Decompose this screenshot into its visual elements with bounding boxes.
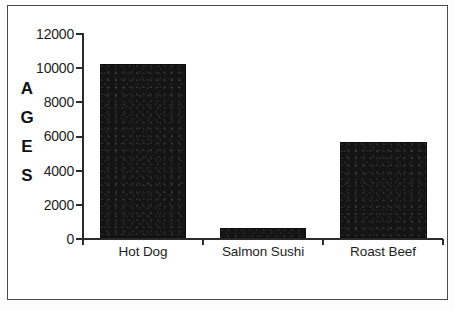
y-tick-label-12000: 12000 [28,26,74,42]
y-tick-label-4000: 4000 [28,163,74,179]
x-category-label-roast-beef: Roast Beef [323,244,443,259]
y-tick-2000 [76,204,83,206]
bar-hot-dog[interactable] [100,64,186,238]
y-tick-8000 [76,101,83,103]
y-tick-label-10000: 10000 [28,60,74,76]
bar-chart: A G E S 12000 10000 8000 6000 4000 2000 … [0,0,455,311]
bar-salmon-sushi[interactable] [220,228,306,238]
bar-roast-beef[interactable] [340,142,427,238]
y-axis-tick-labels: 12000 10000 8000 6000 4000 2000 0 [26,0,74,311]
x-axis-line [82,238,443,240]
y-tick-label-8000: 8000 [28,94,74,110]
scanned-page: A G E S 12000 10000 8000 6000 4000 2000 … [0,0,455,311]
y-tick-6000 [76,136,83,138]
y-tick-4000 [76,170,83,172]
y-tick-10000 [76,67,83,69]
x-category-label-salmon-sushi: Salmon Sushi [203,244,323,259]
y-tick-12000 [76,33,83,35]
x-category-label-hot-dog: Hot Dog [83,244,203,259]
y-tick-label-0: 0 [28,231,74,247]
y-tick-label-2000: 2000 [28,197,74,213]
y-tick-label-6000: 6000 [28,128,74,144]
